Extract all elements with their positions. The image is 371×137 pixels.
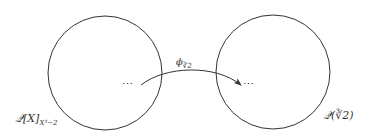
left-set-label-sub: X³−2 — [39, 119, 57, 127]
arrow-label-main: ϕ — [176, 56, 183, 67]
right-set-label: 𝒬(∛2) — [323, 110, 354, 121]
arrow-label: ϕ∛2 — [176, 57, 192, 70]
left-set-label-main: 𝒬[X] — [15, 112, 39, 125]
right-element-dots: ⋯ — [243, 79, 255, 90]
left-set-label: 𝒬[X]X³−2 — [15, 113, 58, 127]
left-element-dots: ⋯ — [122, 79, 134, 90]
right-set-circle — [216, 15, 330, 129]
left-set-circle — [48, 16, 162, 130]
mapping-arrow — [141, 70, 241, 85]
arrow-label-sub: ∛2 — [183, 62, 192, 70]
